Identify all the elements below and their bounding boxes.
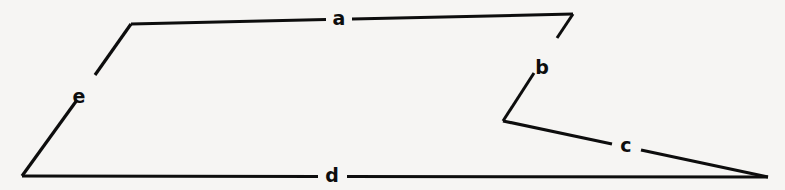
edge-d-segment-1 xyxy=(347,177,768,178)
edge-segments xyxy=(22,14,768,177)
edge-label-a: a xyxy=(333,9,346,28)
edge-b-segment-1 xyxy=(557,14,573,38)
edge-a-segment-1 xyxy=(131,20,326,24)
edge-d-segment-2 xyxy=(22,176,318,177)
edge-b-segment-2 xyxy=(503,73,534,121)
edge-label-c: c xyxy=(620,136,631,155)
edge-c-segment-1 xyxy=(503,121,612,144)
edge-c-segment-2 xyxy=(641,150,768,177)
edge-e-segment-2 xyxy=(95,24,131,75)
edge-label-e: e xyxy=(73,87,86,106)
edge-a-segment-2 xyxy=(352,14,573,19)
figure-canvas: a b c d e xyxy=(0,0,785,190)
edge-label-d: d xyxy=(325,166,339,185)
edge-label-b: b xyxy=(535,58,549,77)
edge-e-segment-1 xyxy=(22,100,77,176)
polygon-line-drawing xyxy=(0,0,785,190)
